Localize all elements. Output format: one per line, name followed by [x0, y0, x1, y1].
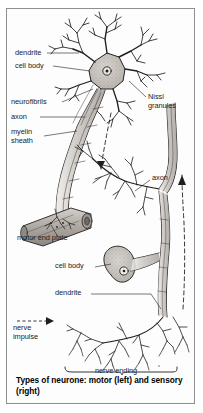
label-dendrite-top: dendrite [15, 49, 41, 58]
label-neurofibrils: neurofibrils [11, 98, 47, 107]
label-myelin-sheath-line2: sheath [11, 137, 33, 146]
nerve-ending-drawing [67, 317, 189, 371]
label-nissl-granules-line2: granules [148, 102, 176, 111]
label-axon-right: axon [152, 174, 168, 183]
sensory-cell-body-drawing [104, 246, 159, 282]
figure-frame: dendrite cell body neurofibrils axon mye… [6, 8, 195, 404]
motor-neurone-drawing [21, 12, 165, 246]
label-nerve-impulse-line2: impulse [13, 333, 38, 342]
label-cell-body-top: cell body [15, 62, 44, 71]
label-motor-end-plate: motor end plate [17, 234, 68, 243]
label-axon-left: axon [11, 113, 27, 122]
figure-root: dendrite cell body neurofibrils axon mye… [0, 0, 203, 413]
figure-caption: Types of neurone: motor (left) and senso… [16, 375, 188, 396]
label-cell-body-bottom: cell body [55, 262, 84, 271]
label-dendrite-bottom: dendrite [55, 289, 81, 298]
